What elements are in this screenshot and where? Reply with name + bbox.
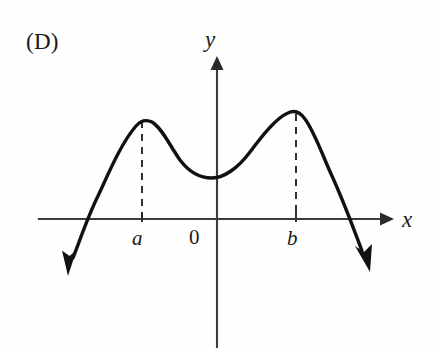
x-tick-label-a: a	[132, 228, 143, 249]
x-axis-arrowhead-icon	[380, 213, 394, 226]
y-axis-label: y	[205, 28, 215, 51]
y-axis-arrowhead-icon	[211, 56, 224, 70]
origin-label: 0	[189, 227, 200, 248]
figure-container: (D) y x a 0 b	[0, 0, 436, 350]
curve-left-arrowhead-icon	[62, 250, 77, 276]
curve-right-arrowhead-icon	[355, 244, 372, 272]
x-tick-label-b: b	[287, 228, 298, 249]
x-axis-label: x	[402, 208, 412, 231]
graph-canvas	[0, 0, 436, 350]
choice-label: (D)	[26, 30, 59, 53]
